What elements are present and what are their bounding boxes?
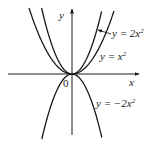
parabola-graph: y x 0 y = 2x2 y = x2 y = −2x2 [0, 0, 149, 144]
origin-label: 0 [63, 77, 69, 89]
curve-label-y-2x2: y = 2x2 [111, 27, 144, 39]
curve-label-y-x2: y = x2 [99, 50, 127, 62]
x-axis-label: x [128, 76, 134, 88]
y-axis-label: y [58, 9, 64, 21]
curve-label-y-neg2x2: y = −2x2 [95, 97, 136, 109]
label-pointer-arrow [98, 30, 111, 34]
